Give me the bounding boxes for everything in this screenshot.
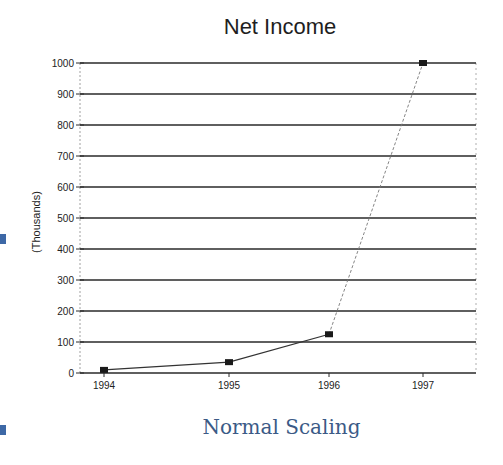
y-tick-label: 0 [68, 368, 74, 379]
y-axis-ticks: 01002003004005006007008009001000 [52, 58, 84, 379]
gridlines [80, 63, 476, 373]
x-axis-ticks: 1994199519961997 [93, 373, 435, 391]
series-line-segment [229, 334, 329, 362]
y-tick-label: 500 [57, 213, 74, 224]
y-tick-label: 300 [57, 275, 74, 286]
y-tick-label: 700 [57, 151, 74, 162]
chart-caption: Normal Scaling [0, 415, 503, 439]
y-tick-label: 100 [57, 337, 74, 348]
blue-square-marker-top [0, 234, 6, 244]
series-line-segment [104, 362, 229, 370]
series-line-segment [329, 63, 423, 334]
data-point-marker [419, 60, 427, 66]
data-point-marker [100, 367, 108, 373]
y-tick-label: 800 [57, 120, 74, 131]
x-tick-label: 1994 [93, 380, 116, 391]
data-point-marker [225, 359, 233, 365]
y-tick-label: 600 [57, 182, 74, 193]
y-tick-label: 200 [57, 306, 74, 317]
data-point-marker [325, 331, 333, 337]
line-chart-plot: 01002003004005006007008009001000 1994199… [0, 0, 503, 400]
y-tick-label: 900 [57, 89, 74, 100]
x-tick-label: 1995 [218, 380, 241, 391]
y-tick-label: 1000 [52, 58, 75, 69]
x-tick-label: 1996 [318, 380, 341, 391]
x-tick-label: 1997 [412, 380, 435, 391]
y-tick-label: 400 [57, 244, 74, 255]
data-series-net-income [100, 60, 427, 373]
